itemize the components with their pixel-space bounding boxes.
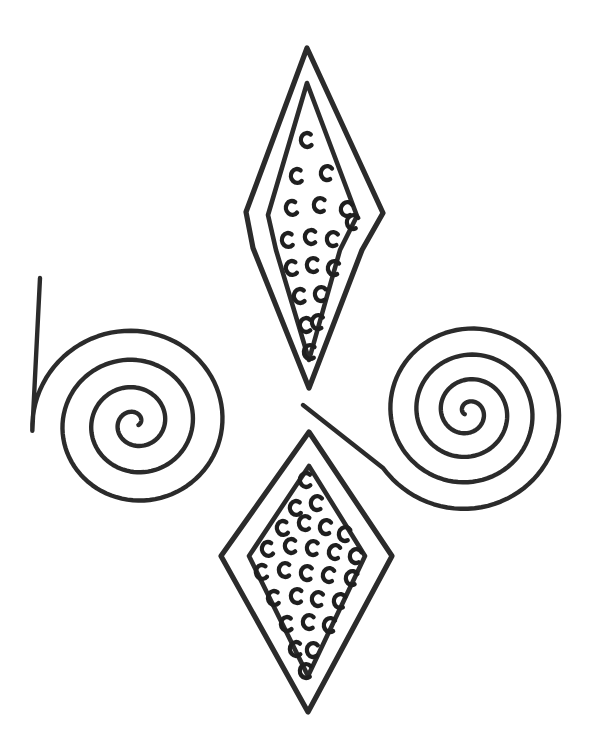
line-art-drawing: [0, 0, 613, 756]
artboard: Fleur-de-lis Style Adinkra Line Drawing …: [0, 0, 613, 756]
